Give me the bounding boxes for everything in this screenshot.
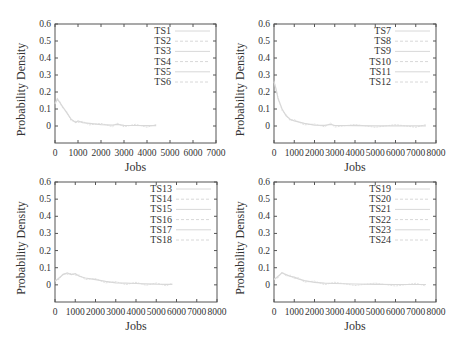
x-tick-label: 7000 — [406, 307, 425, 317]
y-tick-label: 0.6 — [39, 19, 51, 29]
y-axis-label: Probability Density — [14, 43, 28, 137]
x-tick-label: 7000 — [207, 148, 226, 158]
legend-entry: TS24 — [369, 234, 391, 245]
x-tick-label: 8000 — [427, 148, 446, 158]
x-tick-label: 3000 — [325, 307, 344, 317]
x-tick-label: 5000 — [366, 148, 385, 158]
x-tick-label: 2000 — [86, 307, 105, 317]
x-tick-label: 5000 — [366, 307, 385, 317]
series-line — [55, 100, 156, 127]
y-tick-label: 0.1 — [258, 104, 270, 114]
y-tick-label: 0.5 — [39, 194, 51, 204]
chart-panel-top-left: 00.10.20.30.40.50.6010002000300040005000… — [14, 19, 226, 174]
y-tick-label: 0.2 — [258, 87, 270, 97]
y-tick-label: 0.5 — [258, 194, 270, 204]
chart-panel-bottom-right: 00.10.20.30.40.50.6010002000300040005000… — [233, 177, 446, 333]
x-tick-label: 1000 — [69, 148, 88, 158]
y-tick-label: 0.2 — [258, 246, 270, 256]
x-axis-label: Jobs — [125, 160, 147, 174]
y-axis-label: Probability Density — [233, 43, 247, 137]
x-tick-label: 0 — [53, 307, 58, 317]
x-tick-label: 0 — [53, 148, 58, 158]
x-tick-label: 1000 — [285, 148, 304, 158]
y-tick-label: 0.1 — [39, 263, 51, 273]
x-tick-label: 5000 — [147, 307, 166, 317]
x-tick-label: 6000 — [167, 307, 186, 317]
x-tick-label: 6000 — [386, 307, 405, 317]
x-tick-label: 2000 — [305, 307, 324, 317]
x-tick-label: 3000 — [115, 148, 134, 158]
x-tick-label: 7000 — [406, 148, 425, 158]
y-tick-label: 0 — [46, 121, 51, 131]
x-tick-label: 5000 — [161, 148, 180, 158]
series-line — [274, 81, 426, 128]
x-tick-label: 4000 — [138, 148, 157, 158]
x-tick-label: 1000 — [66, 307, 85, 317]
y-tick-label: 0.2 — [39, 246, 51, 256]
y-tick-label: 0.4 — [258, 211, 270, 221]
y-tick-label: 0.5 — [39, 36, 51, 46]
y-tick-label: 0.6 — [258, 19, 270, 29]
chart-panel-top-right: 00.10.20.30.40.50.6010002000300040005000… — [233, 19, 446, 174]
x-tick-label: 3000 — [325, 148, 344, 158]
y-tick-label: 0.3 — [39, 228, 51, 238]
y-tick-label: 0.3 — [258, 70, 270, 80]
y-axis-label: Probability Density — [233, 201, 247, 295]
x-tick-label: 8000 — [208, 307, 227, 317]
legend-entry: TS18 — [150, 234, 172, 245]
legend-entry: TS6 — [154, 76, 171, 87]
x-tick-label: 0 — [272, 307, 277, 317]
y-tick-label: 0.2 — [39, 87, 51, 97]
x-tick-label: 1000 — [285, 307, 304, 317]
x-axis-label: Jobs — [344, 160, 366, 174]
y-tick-label: 0.1 — [39, 104, 51, 114]
figure-canvas: 00.10.20.30.40.50.6010002000300040005000… — [0, 0, 462, 346]
x-tick-label: 6000 — [184, 148, 203, 158]
y-tick-label: 0.4 — [39, 211, 51, 221]
x-tick-label: 4000 — [346, 148, 365, 158]
x-tick-label: 2000 — [92, 148, 111, 158]
series-line — [55, 273, 172, 284]
x-tick-label: 6000 — [386, 148, 405, 158]
y-tick-label: 0 — [46, 280, 51, 290]
x-axis-label: Jobs — [125, 319, 147, 333]
y-tick-label: 0.1 — [258, 263, 270, 273]
x-tick-label: 3000 — [106, 307, 125, 317]
y-tick-label: 0.6 — [258, 177, 270, 187]
x-tick-label: 8000 — [427, 307, 446, 317]
x-tick-label: 0 — [272, 148, 277, 158]
series-line — [55, 99, 156, 126]
x-tick-label: 2000 — [305, 148, 324, 158]
y-tick-label: 0.4 — [39, 53, 51, 63]
series-line — [274, 82, 426, 126]
x-tick-label: 7000 — [187, 307, 206, 317]
y-tick-label: 0.5 — [258, 36, 270, 46]
x-axis-label: Jobs — [344, 319, 366, 333]
y-tick-label: 0.3 — [258, 228, 270, 238]
x-tick-label: 4000 — [346, 307, 365, 317]
y-tick-label: 0.3 — [39, 70, 51, 80]
y-tick-label: 0.6 — [39, 177, 51, 187]
chart-panel-bottom-left: 00.10.20.30.40.50.6010002000300040005000… — [14, 177, 227, 333]
y-axis-label: Probability Density — [14, 201, 28, 295]
y-tick-label: 0 — [265, 280, 270, 290]
legend-entry: TS12 — [369, 76, 391, 87]
x-tick-label: 4000 — [127, 307, 146, 317]
series-line — [274, 273, 426, 285]
y-tick-label: 0 — [265, 121, 270, 131]
y-tick-label: 0.4 — [258, 53, 270, 63]
